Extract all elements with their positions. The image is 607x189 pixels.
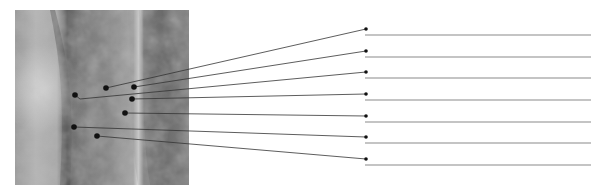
end-dot: [364, 49, 368, 53]
anchor-dot: [72, 92, 78, 98]
callout-4: [129, 92, 591, 102]
anchor-dot: [71, 124, 77, 130]
labeling-diagram: [0, 0, 607, 189]
callout-5: [122, 110, 591, 122]
callout-2: [131, 49, 591, 90]
end-dot: [364, 70, 368, 74]
end-dot: [364, 92, 368, 96]
xray-image: [15, 10, 189, 185]
anchor-dot: [103, 85, 109, 91]
end-dot: [364, 27, 368, 31]
anchor-dot: [94, 133, 100, 139]
end-dot: [364, 157, 368, 161]
anchor-dot: [122, 110, 128, 116]
end-dot: [364, 135, 368, 139]
anchor-dot: [131, 84, 137, 90]
end-dot: [364, 114, 368, 118]
anchor-dot: [129, 96, 135, 102]
